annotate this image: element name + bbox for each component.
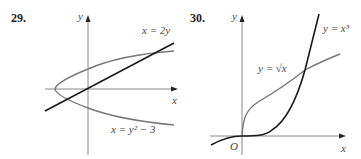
curve-label-parabola: x = y² − 3 — [111, 123, 155, 135]
sqrt-curve — [242, 54, 340, 136]
figure-29: 29. y x x = 2y x = y² − 3 — [0, 0, 180, 159]
y-axis-arrow-icon — [240, 15, 245, 22]
x-axis-label: x — [341, 142, 346, 154]
figure-30: 30. y x O y = x³ y = √x — [180, 0, 361, 159]
y-axis-arrow-icon — [86, 15, 91, 22]
x-axis-arrow-icon — [171, 87, 178, 92]
x-axis-arrow-icon — [339, 134, 346, 139]
cubic-curve — [211, 14, 319, 145]
y-axis-label: y — [78, 10, 83, 22]
parabola-curve — [55, 51, 174, 125]
y-axis-label: y — [232, 10, 237, 22]
curve-label-line: x = 2y — [142, 24, 170, 36]
line-curve — [45, 43, 174, 111]
curve-label-cubic: y = x³ — [323, 22, 349, 34]
curve-label-sqrt: y = √x — [258, 62, 287, 74]
x-axis-label: x — [172, 94, 177, 106]
origin-label: O — [230, 140, 238, 152]
